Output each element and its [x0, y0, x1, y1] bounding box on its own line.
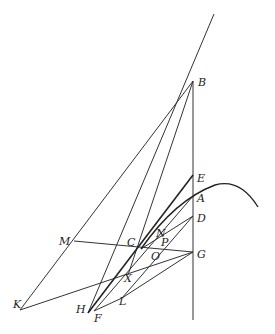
- label-f: F: [93, 312, 102, 325]
- label-b: B: [197, 76, 206, 89]
- label-l: L: [118, 295, 126, 308]
- line-k-g: [20, 252, 193, 310]
- label-x: X: [123, 272, 133, 285]
- label-m: M: [58, 235, 71, 248]
- label-p: P: [160, 236, 169, 249]
- line-top-to-h: [88, 14, 214, 313]
- label-g: G: [197, 248, 206, 261]
- label-e: E: [196, 172, 205, 185]
- label-a: A: [196, 192, 205, 205]
- label-k: K: [12, 298, 22, 311]
- label-o: O: [151, 250, 160, 263]
- label-c: C: [127, 236, 136, 249]
- line-a-f: [94, 196, 193, 311]
- geometry-diagram: B E A D G C N P O M X L K H F: [0, 0, 275, 334]
- line-b-k: [20, 81, 193, 310]
- label-h: H: [75, 303, 86, 316]
- label-d: D: [196, 212, 206, 225]
